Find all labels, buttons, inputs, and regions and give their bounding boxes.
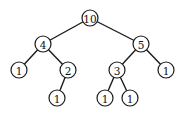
tree-node: 3	[109, 62, 125, 78]
node-label: 1	[102, 93, 109, 105]
tree-node: 1	[158, 62, 174, 78]
tree-node: 2	[60, 62, 76, 78]
node-label: 2	[65, 65, 72, 77]
tree-node: 1	[97, 90, 113, 106]
node-label: 1	[16, 65, 23, 77]
node-label: 5	[138, 39, 145, 51]
node-label: 3	[114, 65, 121, 77]
tree-node: 1	[122, 90, 138, 106]
node-layer: 10451231111	[11, 10, 174, 106]
node-label: 10	[83, 13, 96, 25]
tree-node: 5	[133, 36, 149, 52]
edge-layer	[19, 18, 166, 98]
tree-diagram: 10451231111	[0, 0, 185, 116]
tree-node: 1	[11, 62, 27, 78]
tree-canvas: 10451231111	[0, 0, 185, 116]
node-label: 4	[40, 39, 47, 51]
node-label: 1	[54, 93, 61, 105]
node-label: 1	[127, 93, 134, 105]
tree-node: 10	[82, 10, 98, 26]
tree-node: 1	[49, 90, 65, 106]
tree-node: 4	[35, 36, 51, 52]
node-label: 1	[163, 65, 170, 77]
